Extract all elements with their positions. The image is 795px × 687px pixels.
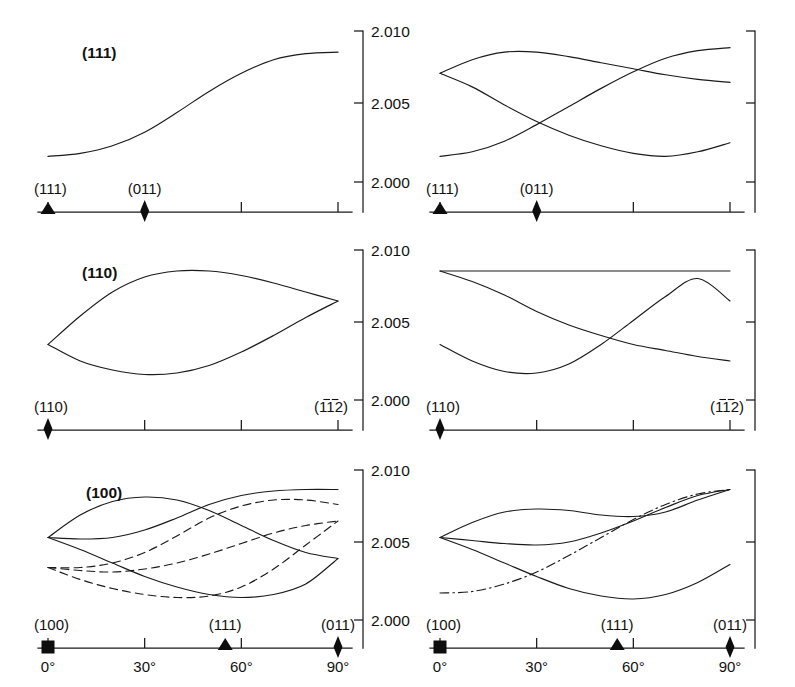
x-axis-row2-right [430,420,744,430]
diamond-marker-110 [44,418,53,440]
y-axis-row3-L [354,470,363,648]
panel-row2-left [48,270,338,374]
x-tick-label-0: 0° [433,658,447,675]
triangle-marker-111 [433,202,448,214]
panel-title-111: (111) [82,44,116,61]
diamond-marker-011 [532,200,541,222]
x-tick-label-90: 90° [327,658,350,675]
curve-row1-left-g-branch-1 [48,52,338,156]
y-tick-label-2.000: 2.000 [371,392,410,409]
direction-label-112bar-left-text: (112) [314,398,348,415]
panel-row3-right [440,490,730,600]
direction-label-112bar-left: (112) [314,398,348,415]
y-tick-label-2.010: 2.010 [371,462,410,479]
curve-row2-left-g-lower-loop [48,301,338,375]
triangle-marker-111 [218,638,233,650]
curve-row2-right-g-ascending [440,278,730,373]
panel-row2-right [440,271,730,374]
y-tick-label-2.005: 2.005 [371,314,410,331]
y-tick-label-2.005: 2.005 [371,534,410,551]
diamond-marker-110 [436,418,445,440]
x-tick-label-30: 30° [133,658,156,675]
x-axis-row1-right [430,202,744,212]
markers-row1-left: (111)(011) [34,180,162,222]
x-axis-row3-left [38,638,352,648]
markers-row3-left: (100)(111)(011) [34,616,355,658]
x-axis-row3-right [430,638,744,648]
curve-row2-right-g-descending [440,271,730,361]
panels-svg: 2.0102.0052.0002.0102.0052.0002.0102.005… [0,0,795,687]
direction-label-011: (011) [713,616,747,633]
y-axis-row2-R [746,250,755,430]
direction-label-111: (111) [426,180,459,197]
square-marker-100 [42,641,55,654]
curve-row1-right-g-branch-1 [440,51,730,82]
triangle-marker-111 [41,202,56,214]
x-tick-label-90: 90° [719,658,742,675]
diamond-marker-011 [726,636,735,658]
panel-row1-right [440,48,730,157]
x-axis-row1-left [38,202,352,212]
direction-label-100: (100) [426,616,461,633]
curve-row3-right-g-solid-2 [440,490,730,546]
direction-label-112bar-right-text: (112) [710,398,744,415]
y-tick-label-2.005: 2.005 [371,95,410,112]
panel-title-110: (110) [82,264,117,281]
diamond-marker-011 [334,636,343,658]
y-axis-row3-R [746,470,755,648]
y-tick-label-2.000: 2.000 [371,612,410,629]
x-tick-label-0: 0° [41,658,55,675]
y-axis-row1-L [354,31,363,212]
y-tick-label-2.010: 2.010 [371,23,410,40]
markers-row1-right: (111)(011) [426,180,554,222]
curve-row3-left-g-solid-3 [48,538,338,598]
direction-label-111: (111) [601,616,634,633]
curve-row2-left-g-upper-loop [48,270,338,344]
x-axis-row2-left [38,420,352,430]
panel-title-100: (100) [86,484,122,501]
y-tick-label-2.000: 2.000 [371,174,410,191]
curve-row3-left-g-dashed-2 [48,521,338,572]
x-tick-label-60: 60° [622,658,645,675]
direction-label-011: (011) [128,180,162,197]
direction-label-100: (100) [34,616,69,633]
markers-row3-right: (100)(111)(011) [426,616,747,658]
y-axis-row1-R [746,31,755,212]
direction-label-011: (011) [321,616,355,633]
panel-row3-left [48,489,338,597]
direction-label-110: (110) [34,398,68,415]
triangle-marker-111 [610,638,625,650]
direction-label-111: (111) [34,180,67,197]
direction-label-110: (110) [426,398,460,415]
direction-label-011: (011) [520,180,554,197]
x-tick-label-30: 30° [525,658,548,675]
curve-row1-right-g-branch-3 [440,48,730,157]
markers-row2-right: (110) [426,398,460,440]
markers-row2-left: (110) [34,398,68,440]
diamond-marker-011 [140,200,149,222]
square-marker-100 [434,641,447,654]
direction-label-111: (111) [209,616,242,633]
x-tick-label-60: 60° [230,658,253,675]
curve-row1-right-g-branch-2 [440,73,730,156]
direction-label-112bar-right: (112) [710,398,744,415]
figure-root: 2.0102.0052.0002.0102.0052.0002.0102.005… [0,0,795,687]
y-axis-row2-L [354,250,363,430]
y-tick-label-2.010: 2.010 [371,242,410,259]
panel-row1-left [48,52,338,156]
